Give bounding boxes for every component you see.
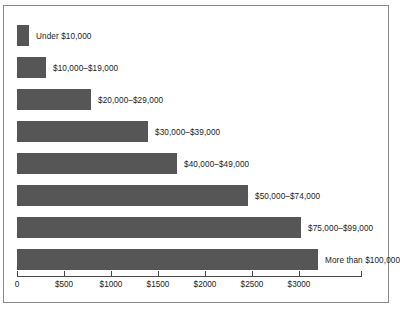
x-tick-mark — [205, 271, 206, 277]
bar-label: $30,000–$39,000 — [155, 127, 220, 136]
x-tick-label: $3000 — [288, 280, 311, 289]
x-tick-mark — [64, 271, 65, 277]
x-tick-mark — [17, 271, 18, 277]
x-tick-label: $1000 — [100, 280, 123, 289]
bar-label: $40,000–$49,000 — [184, 159, 249, 168]
x-tick-label: $2500 — [241, 280, 264, 289]
x-tick-label: $2000 — [194, 280, 217, 289]
bar-label: Under $10,000 — [36, 31, 91, 40]
bar-10000-19000[interactable] — [17, 57, 46, 78]
plot-area: Under $10,000 $10,000–$19,000 $20,000–$2… — [4, 6, 388, 302]
x-tick-label: 0 — [15, 280, 20, 289]
bar-40000-49000[interactable] — [17, 153, 177, 174]
x-tick-label: $1500 — [147, 280, 170, 289]
x-tick-mark — [252, 271, 253, 277]
x-tick-mark — [158, 271, 159, 277]
bar-label: $20,000–$29,000 — [98, 95, 163, 104]
x-tick-mark — [299, 271, 300, 277]
bar-50000-74000[interactable] — [17, 185, 248, 206]
x-axis-line — [17, 276, 362, 277]
bar-20000-29000[interactable] — [17, 89, 91, 110]
x-tick-mark — [361, 271, 362, 277]
chart-frame: Under $10,000 $10,000–$19,000 $20,000–$2… — [3, 5, 389, 303]
bar-label: $10,000–$19,000 — [53, 63, 118, 72]
x-tick-mark — [111, 271, 112, 277]
x-tick-label: $500 — [55, 280, 73, 289]
bar-label: More than $100,000 — [325, 255, 400, 264]
bar-75000-99000[interactable] — [17, 217, 301, 238]
bar-30000-39000[interactable] — [17, 121, 148, 142]
bar-under-10000[interactable] — [17, 25, 29, 46]
bar-label: $50,000–$74,000 — [255, 191, 320, 200]
bar-label: $75,000–$99,000 — [308, 223, 373, 232]
bar-more-than-100000[interactable] — [17, 249, 318, 270]
